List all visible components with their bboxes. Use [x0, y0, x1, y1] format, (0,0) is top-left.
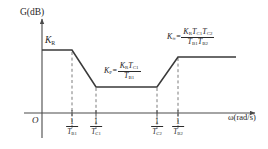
x-tick-tc2-denominator: TC2 — [151, 127, 163, 136]
kp-numerator: KRTC1 — [118, 62, 141, 72]
y-axis-title: G(dB) — [20, 8, 44, 18]
kp-denominator: TB1 — [118, 72, 141, 81]
kp-fraction: KRTC1 TB1 — [118, 62, 141, 80]
x-tick-tc1-denominator: TC1 — [90, 127, 102, 136]
kinf-num-term3-sub: C2 — [207, 31, 213, 36]
x-tick-tb2-den-sub: B2 — [177, 131, 183, 136]
x-axis-title: ω(rad/s) — [228, 113, 256, 122]
bode-plot-figure: G(dB) ω(rad/s) O KR KP= KRTC1 TB1 K∞= KR… — [0, 0, 268, 149]
x-tick-tb2-denominator: TB2 — [172, 127, 184, 136]
kr-subscript: R — [51, 40, 55, 46]
kr-gain-label: KR — [45, 36, 55, 47]
x-tick-label-tc1: 1 TC1 — [90, 117, 102, 136]
origin-label: O — [32, 116, 39, 125]
x-tick-tb1-numerator: 1 — [66, 117, 78, 127]
kinf-denominator: TB1TB2 — [181, 38, 214, 47]
kinf-fraction: KRTC1TC2 TB1TB2 — [181, 28, 214, 46]
x-tick-label-tb1: 1 TB1 — [66, 117, 78, 136]
x-tick-tc2-numerator: 1 — [151, 117, 163, 127]
x-tick-tc1-numerator: 1 — [90, 117, 102, 127]
x-tick-label-tc2: 1 TC2 — [151, 117, 163, 136]
kp-formula: KP= KRTC1 TB1 — [104, 62, 141, 80]
x-tick-tb1-denominator: TB1 — [66, 127, 78, 136]
x-tick-label-tb2: 1 TB2 — [172, 117, 184, 136]
kinf-den-term2-sub: B2 — [202, 41, 208, 46]
kinf-lhs: K∞ — [167, 33, 176, 42]
x-tick-tc1-den-sub: C1 — [95, 131, 101, 136]
kp-den-term1-sub: B1 — [128, 75, 134, 80]
x-tick-tb1-den-sub: B1 — [71, 131, 77, 136]
kp-num-term2-sub: C1 — [133, 65, 139, 70]
x-tick-tb2-numerator: 1 — [172, 117, 184, 127]
x-tick-tc2-den-sub: C2 — [156, 131, 162, 136]
kinf-formula: K∞= KRTC1TC2 TB1TB2 — [167, 28, 214, 46]
kp-lhs: KP — [104, 67, 112, 76]
